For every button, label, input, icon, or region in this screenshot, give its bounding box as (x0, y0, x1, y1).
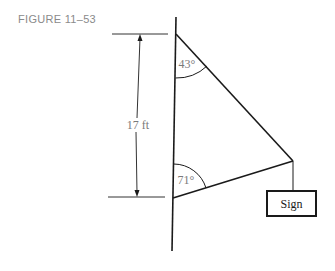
sign-support-diagram: 17 ft 43° 71° Sign (0, 0, 335, 271)
dimension-line-lower (136, 132, 137, 193)
sign-label: Sign (280, 197, 302, 211)
arrow-down-icon (135, 190, 140, 197)
dimension-label: 17 ft (127, 118, 150, 132)
top-angle-label: 43° (179, 57, 196, 71)
bottom-angle-label: 71° (178, 173, 195, 187)
upper-strut (176, 34, 293, 161)
arrow-up-icon (138, 34, 143, 41)
dimension-line-upper (137, 38, 140, 118)
wall-line (172, 17, 176, 251)
